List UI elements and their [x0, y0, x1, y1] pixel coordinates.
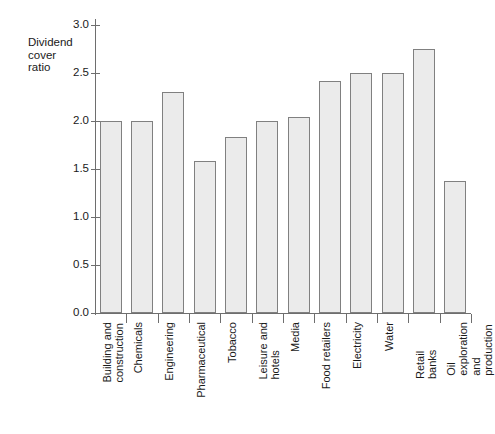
- y-axis-tick-label: 3.0: [55, 19, 89, 31]
- x-axis-category-label: Media: [289, 322, 301, 352]
- bar: [350, 73, 372, 313]
- y-axis-tick: [91, 217, 100, 218]
- bar: [225, 137, 247, 313]
- x-axis-category-label-wrapper: Oil exploration and production: [445, 322, 495, 376]
- bar: [100, 121, 122, 313]
- x-axis-category-label: Retail banks: [414, 322, 439, 379]
- y-axis-tick: [91, 25, 100, 26]
- x-axis-category-label-wrapper: Pharmaceutical: [195, 322, 207, 398]
- x-axis-category-label: Chemicals: [132, 322, 144, 373]
- y-axis-tick-label: 2.0: [55, 115, 89, 127]
- x-axis-category-label: Tobacco: [226, 322, 238, 363]
- x-axis-category-label: Oil exploration and production: [445, 322, 495, 376]
- y-axis-tick: [91, 313, 100, 314]
- x-axis-category-label-wrapper: Media: [289, 322, 301, 352]
- y-axis-tick: [91, 265, 100, 266]
- x-axis-category-label-wrapper: Building and construction: [101, 322, 126, 383]
- y-axis-line: [95, 19, 96, 315]
- x-axis-category-label: Water: [383, 322, 395, 351]
- bar: [444, 181, 466, 313]
- plot-area: [95, 25, 471, 313]
- bar: [319, 81, 341, 313]
- x-axis-category-label: Engineering: [163, 322, 175, 381]
- bar: [256, 121, 278, 313]
- x-axis-category-label-wrapper: Leisure and hotels: [257, 322, 282, 380]
- bar: [382, 73, 404, 313]
- x-axis-category-label: Electricity: [351, 322, 363, 369]
- y-axis-tick-label: 1.0: [55, 211, 89, 223]
- y-axis-tick: [91, 73, 100, 74]
- x-axis-category-label-wrapper: Water: [383, 322, 395, 351]
- bar: [413, 49, 435, 313]
- bar: [131, 121, 153, 313]
- x-axis-category-label: Pharmaceutical: [195, 322, 207, 398]
- y-axis-title: Dividend cover ratio: [28, 36, 92, 74]
- x-axis-category-label: Building and construction: [101, 322, 126, 383]
- y-axis-tick: [91, 169, 100, 170]
- x-axis-category-labels: Building and constructionChemicalsEngine…: [95, 322, 471, 434]
- x-axis-category-label: Leisure and hotels: [257, 322, 282, 380]
- y-axis-tick-label: 0.5: [55, 259, 89, 271]
- bar: [162, 92, 184, 313]
- x-axis-category-label-wrapper: Engineering: [163, 322, 175, 381]
- y-axis-tick: [91, 121, 100, 122]
- x-axis-category-label-wrapper: Tobacco: [226, 322, 238, 363]
- x-axis-category-label: Food retailers: [320, 322, 332, 389]
- x-axis-category-label-wrapper: Food retailers: [320, 322, 332, 389]
- x-axis-category-label-wrapper: Electricity: [351, 322, 363, 369]
- x-axis-category-label-wrapper: Retail banks: [414, 322, 439, 379]
- bar: [288, 117, 310, 313]
- y-axis-tick-label: 0.0: [55, 307, 89, 319]
- x-axis-category-label-wrapper: Chemicals: [132, 322, 144, 373]
- bar: [194, 161, 216, 313]
- y-axis-tick-label: 1.5: [55, 163, 89, 175]
